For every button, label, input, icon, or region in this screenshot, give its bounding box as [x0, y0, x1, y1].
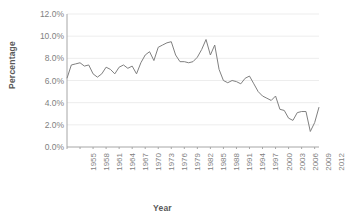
x-tick-label: 2012	[336, 153, 345, 171]
data-series-line	[67, 39, 319, 131]
gridlines	[67, 14, 319, 149]
